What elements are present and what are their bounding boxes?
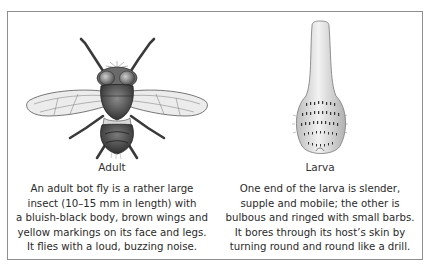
description-line: It flies with a loud, buzzing noise. bbox=[8, 240, 216, 255]
description-line: supple and mobile; the other is bbox=[216, 197, 424, 212]
larva-label: Larva bbox=[216, 161, 424, 173]
figure-frame: Adult An adult bot fly is a rather large… bbox=[7, 11, 423, 260]
description-line: An adult bot fly is a rather large bbox=[8, 182, 216, 197]
description-line: a bluish-black body, brown wings and bbox=[8, 211, 216, 226]
description-line: yellow markings on its face and legs. bbox=[8, 226, 216, 241]
bot-fly-adult-icon bbox=[8, 12, 216, 160]
description-line: insect (10–15 mm in length) with bbox=[8, 197, 216, 212]
adult-label: Adult bbox=[8, 161, 216, 173]
description-line: It bores through its host’s skin by bbox=[216, 226, 424, 241]
adult-panel: Adult An adult bot fly is a rather large… bbox=[8, 12, 216, 259]
bot-fly-larva-icon bbox=[216, 12, 424, 160]
description-line: turning round and round like a drill. bbox=[216, 240, 424, 255]
description-line: bulbous and ringed with small barbs. bbox=[216, 211, 424, 226]
larva-panel: Larva One end of the larva is slender, s… bbox=[216, 12, 424, 259]
larva-description: One end of the larva is slender, supple … bbox=[216, 182, 424, 255]
adult-description: An adult bot fly is a rather large insec… bbox=[8, 182, 216, 255]
description-line: One end of the larva is slender, bbox=[216, 182, 424, 197]
